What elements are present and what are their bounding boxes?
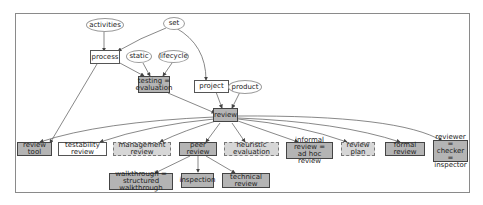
node-technical-review: technical review <box>222 173 270 188</box>
node-lifecycle: lifecycle <box>158 50 189 63</box>
node-set: set <box>163 17 185 30</box>
edge-static-testing <box>143 63 150 76</box>
edge-process-testing <box>118 62 144 76</box>
node-review-plan: review plan <box>341 142 375 156</box>
edge-lifecycle-testing <box>163 63 172 76</box>
edge-review-heuristic <box>232 123 245 142</box>
edge-review-testability <box>100 119 214 142</box>
edge-review-management <box>160 121 216 142</box>
node-process: process <box>90 50 120 64</box>
edge-review-reviewtool <box>40 117 214 142</box>
node-static: static <box>126 50 152 63</box>
node-management-review: management review <box>113 142 171 156</box>
node-formal-review: formal review <box>385 142 425 156</box>
node-review-tool: review tool <box>17 142 52 156</box>
node-heuristic-evaluation: heuristic evaluation <box>224 142 279 156</box>
node-walkthrough: walkthrough = structured walkthrough <box>109 173 173 190</box>
edge-product-review <box>232 92 240 108</box>
node-testing: testing = evaluation <box>138 76 170 93</box>
node-peer-review: peer review <box>179 142 217 156</box>
node-reviewer: reviewer = checker = inspector <box>433 140 468 162</box>
node-activities: activities <box>86 18 124 32</box>
edge-project-review <box>216 92 222 108</box>
edge-set-process <box>118 28 166 51</box>
node-product: product <box>228 80 262 94</box>
node-testability-review: testability review <box>58 142 107 156</box>
edge-review-peer <box>206 123 220 142</box>
node-review: review <box>213 108 238 122</box>
edge-testing-review <box>168 93 215 113</box>
node-informal-review: informal review = ad hoc review <box>286 142 333 159</box>
edge-peer-technical <box>206 156 235 173</box>
node-inspection: inspection <box>181 173 214 188</box>
edge-process-reviewtool <box>50 64 97 143</box>
node-project: project <box>194 80 229 93</box>
